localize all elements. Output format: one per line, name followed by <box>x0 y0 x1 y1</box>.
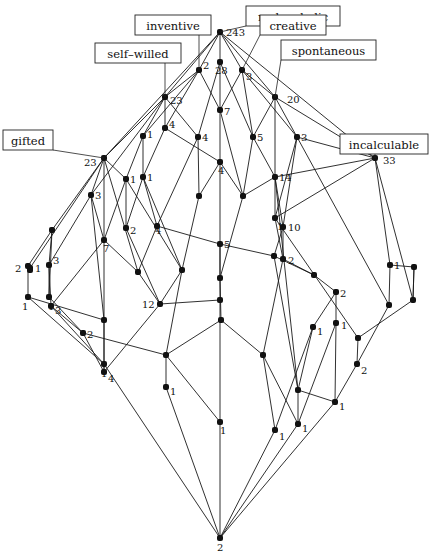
concept-node <box>271 253 277 259</box>
node-count-label: 1 <box>130 174 136 185</box>
lattice-edge <box>199 162 220 196</box>
node-count-label: 4 <box>202 132 208 143</box>
node-count-label: 2 <box>130 225 136 236</box>
lattice-edge <box>220 32 275 97</box>
concept-node <box>101 369 107 375</box>
lattice-nodes: 2432283232023334175314144312411075213213… <box>15 27 417 553</box>
attribute-leader-line <box>275 60 281 97</box>
node-count-label: 20 <box>287 94 300 105</box>
concept-node <box>157 301 163 307</box>
concept-node <box>240 193 246 199</box>
node-count-label: 2 <box>217 542 223 553</box>
concept-node <box>135 269 141 275</box>
concept-node <box>280 224 286 230</box>
node-count-label: 1 <box>147 129 153 140</box>
concept-node <box>311 272 317 278</box>
node-count-label: 3 <box>95 190 101 201</box>
concept-node <box>179 267 185 273</box>
concept-node <box>140 133 146 139</box>
attribute-name: self–willed <box>107 47 169 61</box>
concept-node <box>280 256 286 262</box>
concept-node <box>25 294 31 300</box>
node-count-label: 23 <box>84 157 97 168</box>
node-count-label: 2 <box>361 365 367 376</box>
node-count-label: 4 <box>155 225 161 236</box>
lattice-edge <box>275 327 313 430</box>
lattice-edge <box>357 338 358 364</box>
node-count-label: 5 <box>224 239 230 250</box>
concept-node <box>196 193 202 199</box>
lattice-edge <box>413 267 414 300</box>
lattice-edge <box>314 275 336 292</box>
lattice-edge <box>220 110 243 196</box>
concept-node <box>387 262 393 268</box>
lattice-edge <box>220 196 243 278</box>
node-count-label: 2 <box>15 263 21 274</box>
attribute-name: inventive <box>146 19 200 33</box>
concept-node <box>386 302 392 308</box>
concept-node <box>333 320 339 326</box>
concept-node <box>195 134 201 140</box>
lattice-edge <box>51 240 104 306</box>
concept-node <box>260 352 266 358</box>
lattice-edge <box>104 179 126 240</box>
node-count-label: 4 <box>169 119 175 130</box>
node-count-label: 28 <box>215 65 228 76</box>
lattice-edge <box>389 265 390 305</box>
node-count-label: 2 <box>340 288 346 299</box>
concept-node <box>163 384 169 390</box>
concept-node <box>46 294 52 300</box>
attribute-leader-line <box>53 150 104 158</box>
concept-node <box>410 297 416 303</box>
node-count-label: 3 <box>55 305 61 316</box>
concept-node <box>272 427 278 433</box>
node-count-label: 1 <box>22 301 28 312</box>
node-count-label: 3 <box>246 71 252 82</box>
lattice-edge <box>199 70 220 110</box>
concept-node <box>48 303 54 309</box>
concept-node <box>294 134 300 140</box>
lattice-edge <box>243 177 275 196</box>
lattice-edge <box>165 128 220 162</box>
lattice-edge <box>335 364 357 402</box>
concept-node <box>272 174 278 180</box>
concept-node <box>295 387 301 393</box>
concept-node <box>162 125 168 131</box>
node-count-label: 1 <box>279 431 285 442</box>
node-count-label: 23 <box>170 95 183 106</box>
concept-node <box>354 361 360 367</box>
lattice-edge <box>298 390 335 402</box>
node-count-label: 10 <box>288 222 301 233</box>
node-count-label: 2 <box>203 60 209 71</box>
lattice-edge <box>165 70 199 97</box>
concept-node <box>310 324 316 330</box>
node-count-label: 3 <box>53 255 59 266</box>
lattice-edge <box>104 364 220 538</box>
concept-lattice-diagram: 2432283232023334175314144312411075213213… <box>0 0 433 553</box>
node-count-label: 4 <box>108 373 114 384</box>
concept-node <box>411 264 417 270</box>
attribute-name: gifted <box>11 134 46 148</box>
attribute-labels: melancholicinventivecreativeself–willeds… <box>3 6 428 158</box>
concept-node <box>46 262 52 268</box>
lattice-edge <box>263 259 283 355</box>
lattice-edge <box>198 137 199 196</box>
concept-node <box>217 535 223 541</box>
attribute-label-incalculable: incalculable <box>340 134 428 158</box>
lattice-edge <box>91 195 104 320</box>
node-count-label: 5 <box>257 132 263 143</box>
lattice-edge <box>28 230 52 266</box>
node-count-label: 1 <box>302 423 308 434</box>
lattice-edge <box>160 300 220 304</box>
node-count-label: 2 <box>87 329 93 340</box>
concept-node <box>217 297 223 303</box>
concept-node <box>295 421 301 427</box>
concept-node <box>80 330 86 336</box>
lattice-edge <box>104 304 160 372</box>
lattice-edge <box>166 387 220 538</box>
attribute-name: spontaneous <box>292 44 366 58</box>
node-count-label: 1 <box>317 326 323 337</box>
concept-node <box>101 317 107 323</box>
lattice-edge <box>220 430 275 538</box>
lattice-edge <box>253 137 275 177</box>
